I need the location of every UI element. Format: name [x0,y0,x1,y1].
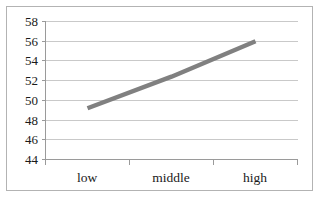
x-tick-label-middle: middle [152,170,190,185]
chart-figure: 58 56 54 52 50 48 46 44 low middle high [0,0,321,200]
gridlines [46,22,298,140]
y-tick-label-44: 44 [25,152,39,167]
y-axis-tickmarks [42,22,46,160]
y-tick-label-56: 56 [25,34,39,49]
y-tick-label-50: 50 [25,93,38,108]
y-tick-label-52: 52 [25,73,38,88]
y-tick-label-46: 46 [25,132,39,147]
x-axis-labels: low middle high [77,170,267,185]
y-tick-label-48: 48 [25,113,38,128]
y-tick-label-54: 54 [25,53,39,68]
series-line-1 [88,41,256,108]
x-tick-label-high: high [243,170,267,185]
x-tick-label-low: low [77,170,98,185]
y-axis-labels: 58 56 54 52 50 48 46 44 [25,14,39,167]
x-axis-tickmarks [46,160,298,165]
line-chart: 58 56 54 52 50 48 46 44 low middle high [0,0,321,200]
y-tick-label-58: 58 [25,14,38,29]
